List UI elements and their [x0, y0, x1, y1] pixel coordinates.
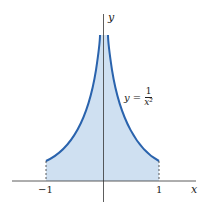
equation-lhs: y = — [124, 92, 141, 103]
equation-label: y = 1 x² — [124, 87, 153, 108]
plot-canvas — [0, 0, 207, 212]
x-axis-label: x — [191, 184, 197, 195]
equation-fraction: 1 x² — [144, 87, 153, 108]
equation-denominator: x² — [144, 98, 153, 108]
tick-label-one: 1 — [156, 185, 162, 195]
y-axis-label: y — [108, 12, 114, 23]
figure: y x −1 1 y = 1 x² — [0, 0, 207, 212]
tick-label-neg-one: −1 — [38, 185, 53, 195]
shaded-region — [46, 35, 159, 181]
